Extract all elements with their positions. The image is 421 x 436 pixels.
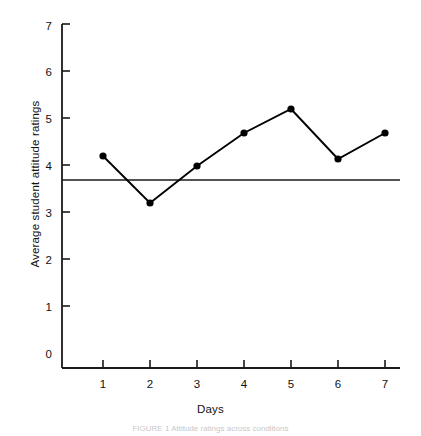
- x-tick-label-4: 4: [233, 378, 255, 390]
- y-tick-label-6: 6: [30, 66, 52, 78]
- data-point-1: [99, 152, 106, 159]
- chart-figure: Average student attitude ratings Days 7 …: [0, 0, 421, 436]
- plot-area: [0, 0, 421, 436]
- data-point-4: [240, 129, 247, 136]
- x-axis-title: Days: [0, 403, 421, 415]
- y-tick-label-0: 0: [30, 348, 52, 360]
- x-tick-label-1: 1: [92, 378, 114, 390]
- y-tick-label-1: 1: [30, 301, 52, 313]
- data-point-7: [381, 129, 388, 136]
- y-tick-label-2: 2: [30, 254, 52, 266]
- x-tick-label-6: 6: [327, 378, 349, 390]
- y-tick-label-7: 7: [30, 20, 52, 32]
- figure-caption: FIGURE 1 Attitude ratings across conditi…: [0, 424, 421, 436]
- x-tick-label-2: 2: [139, 378, 161, 390]
- data-point-2: [146, 199, 153, 206]
- y-tick-label-3: 3: [30, 207, 52, 219]
- y-tick-label-4: 4: [30, 160, 52, 172]
- data-point-3: [193, 162, 200, 169]
- x-tick-label-5: 5: [280, 378, 302, 390]
- data-point-6: [334, 155, 341, 162]
- y-axis-ticks: [62, 24, 70, 306]
- data-point-5: [287, 105, 294, 112]
- x-axis-ticks: [103, 360, 385, 368]
- data-line: [103, 109, 385, 203]
- y-tick-label-5: 5: [30, 113, 52, 125]
- x-tick-label-3: 3: [186, 378, 208, 390]
- x-tick-label-7: 7: [374, 378, 396, 390]
